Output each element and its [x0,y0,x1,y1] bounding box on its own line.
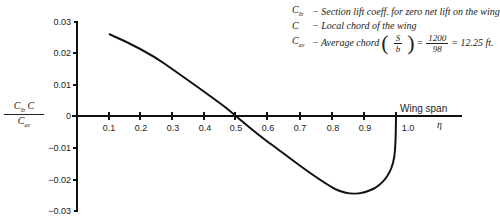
x-tick-label: 0.9 [359,123,372,133]
y-axis-label-numerator: Clb C [4,100,44,115]
x-tick-label: 0.4 [199,123,212,133]
x-tick-labels: 0.1 0.2 0.3 0.4 0.5 0.6 0.7 0.8 0.9 1.0 [103,123,415,133]
y-tick-label: −0.03 [48,206,71,216]
y-tick-label: 0.02 [53,48,71,58]
legend-text: − Section lift coeff. for zero net lift … [312,6,500,18]
x-tick-label: 0.5 [230,123,243,133]
legend-row-clb: Clb − Section lift coeff. for zero net l… [292,4,500,20]
y-tick-label: 0.01 [53,80,71,90]
legend-row-cav: Cav − Average chord ( Sb ) = 120098 = 12… [292,32,500,54]
x-tick-label: 0.6 [262,123,275,133]
data-curve [109,34,396,194]
x-axis-symbol: η [437,119,442,130]
x-tick-label: 0.7 [294,123,307,133]
y-tick-label: −0.01 [48,143,71,153]
legend-text: − Local chord of the wing [312,20,416,32]
fraction-s-over-b: Sb [394,33,403,54]
y-tick-label: 0.03 [53,17,71,27]
y-tick-labels: 0.03 0.02 0.01 0 −0.01 −0.02 −0.03 [48,17,71,216]
x-tick-label: 1.0 [402,123,415,133]
y-axis-label: Clb C Cav [4,100,44,128]
x-tick-label: 0.8 [327,123,340,133]
x-tick-label: 0.1 [103,123,116,133]
legend-text: − Average chord [312,37,379,49]
fraction-1200-over-98: 120098 [426,33,448,54]
y-tick-label: 0 [66,111,71,121]
y-tick-label: −0.02 [48,175,71,185]
legend: Clb − Section lift coeff. for zero net l… [292,4,500,54]
x-axis-label: Wing span [400,103,447,114]
x-tick-label: 0.3 [167,123,180,133]
y-axis-label-denominator: Cav [18,115,30,126]
x-tick-label: 0.2 [135,123,148,133]
legend-row-c: C − Local chord of the wing [292,20,500,32]
